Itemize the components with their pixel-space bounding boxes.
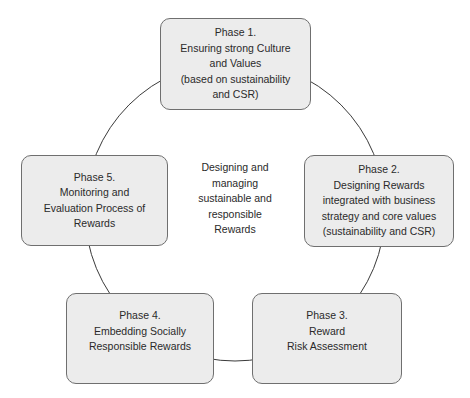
phase-5-box: Phase 5. Monitoring and Evaluation Proce… (21, 155, 168, 246)
phase-3-box: Phase 3. Reward Risk Assessment (252, 293, 402, 384)
center-line: sustainable and (185, 191, 285, 207)
phase-1-line: (based on sustainability (181, 72, 291, 88)
phase-1-line: and Values (210, 56, 262, 72)
phase-4-box: Phase 4. Embedding Socially Responsible … (66, 293, 214, 384)
phase-2-title: Phase 2. (358, 162, 399, 178)
phase-5-title: Phase 5. (74, 170, 115, 186)
phase-2-line: strategy and core values (322, 209, 436, 225)
center-line: Rewards (185, 222, 285, 238)
center-line: responsible (185, 207, 285, 223)
phase-4-line: Responsible Rewards (89, 339, 191, 355)
center-line: managing (185, 176, 285, 192)
phase-1-title: Phase 1. (215, 25, 256, 41)
phase-2-line: (sustainability and CSR) (323, 224, 436, 240)
phase-3-title: Phase 3. (306, 308, 347, 324)
phase-4-line: Embedding Socially (94, 324, 186, 340)
phase-1-line: and CSR) (212, 87, 258, 103)
phase-5-line: Rewards (74, 216, 115, 232)
phase-2-line: integrated with business (323, 193, 436, 209)
phase-5-line: Monitoring and (60, 185, 129, 201)
phase-3-line: Risk Assessment (287, 339, 367, 355)
center-line: Designing and (185, 160, 285, 176)
phase-2-line: Designing Rewards (333, 178, 424, 194)
phase-4-title: Phase 4. (119, 308, 160, 324)
phase-5-line: Evaluation Process of (44, 201, 146, 217)
center-label: Designing and managing sustainable and r… (185, 160, 285, 238)
phase-1-box: Phase 1. Ensuring strong Culture and Val… (160, 18, 311, 110)
phase-2-box: Phase 2. Designing Rewards integrated wi… (304, 155, 454, 247)
phase-1-line: Ensuring strong Culture (180, 41, 290, 57)
phase-3-line: Reward (309, 324, 345, 340)
